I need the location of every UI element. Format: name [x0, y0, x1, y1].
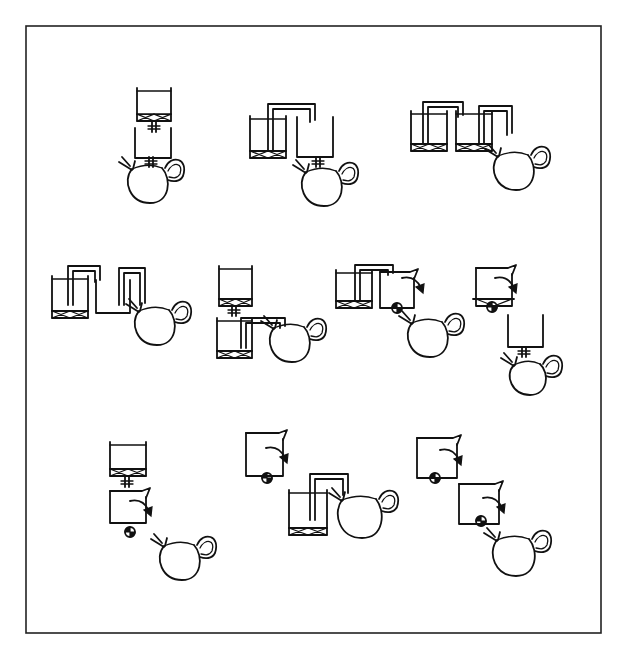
panel-1	[119, 88, 184, 203]
ball-valve-icon	[476, 516, 486, 526]
pour-arrow-icon	[495, 277, 517, 293]
filter-vessel	[137, 88, 171, 121]
vessel	[135, 128, 171, 158]
panel-5	[217, 266, 326, 362]
filter-vessel	[219, 266, 252, 306]
ball-valve-icon	[125, 527, 135, 537]
figure-frame	[26, 26, 601, 633]
panel-4	[52, 266, 191, 345]
gate-valve-icon	[312, 157, 324, 167]
teapot-icon	[484, 528, 551, 576]
panel-10	[417, 435, 551, 576]
ball-valve-icon	[392, 303, 402, 313]
siphon-tube	[355, 265, 393, 300]
filter-vessel	[411, 111, 447, 151]
ball-valve-icon	[487, 302, 497, 312]
pour-arrow-icon	[130, 500, 152, 516]
pour-arrow-icon	[266, 447, 288, 463]
filter-vessel	[336, 270, 372, 308]
siphon-tube	[423, 102, 463, 143]
panels-group	[52, 88, 562, 580]
gate-valve-icon	[228, 306, 240, 316]
vessel	[508, 315, 543, 347]
gate-valve-icon	[148, 122, 160, 132]
pour-arrow-icon	[402, 277, 424, 293]
teapot-icon	[501, 353, 562, 395]
pour-vessel	[380, 269, 418, 308]
panel-3	[411, 102, 550, 190]
filter-vessel	[110, 442, 146, 476]
siphon-tube	[119, 268, 145, 305]
siphon-tube	[479, 106, 512, 143]
pour-arrow-icon	[440, 449, 462, 465]
teapot-brewing-configurations-diagram	[0, 0, 622, 653]
pour-vessel	[110, 488, 150, 523]
pour-filter-vessel	[473, 265, 516, 306]
gate-valve-icon	[518, 347, 530, 357]
pour-arrow-icon	[483, 497, 505, 513]
teapot-icon	[485, 144, 550, 190]
teapot-icon	[151, 534, 216, 580]
ball-valve-icon	[430, 473, 440, 483]
teapot-icon	[126, 299, 191, 345]
teapot-icon	[261, 316, 326, 362]
vessel	[297, 117, 333, 157]
panel-2	[250, 104, 358, 206]
diagram-canvas	[0, 0, 622, 653]
teapot-icon	[329, 488, 398, 538]
siphon-tube	[268, 104, 315, 150]
filter-vessel	[52, 276, 88, 318]
panel-8	[110, 442, 216, 580]
teapot-icon	[399, 311, 464, 357]
filter-vessel	[289, 490, 327, 535]
ball-valve-icon	[262, 473, 272, 483]
filter-vessel	[456, 111, 492, 151]
pour-vessel	[417, 435, 461, 478]
siphon-tube	[310, 474, 348, 520]
panel-9	[246, 430, 398, 538]
teapot-icon	[293, 160, 358, 206]
panel-6	[336, 265, 464, 357]
panel-7	[473, 265, 562, 395]
gate-valve-icon	[121, 477, 133, 487]
